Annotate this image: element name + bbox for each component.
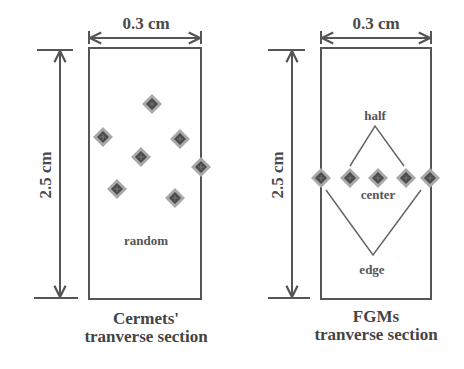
center-label: center: [361, 187, 396, 202]
width-dimension: 0.3 cm: [89, 14, 201, 44]
point-marker-edge-right: [420, 168, 440, 188]
point-marker: [191, 157, 211, 177]
point-marker: [170, 129, 190, 149]
point-marker: [93, 127, 113, 147]
random-label: random: [124, 233, 168, 248]
cermets-caption-line2: tranverse section: [84, 327, 208, 346]
random-points: [93, 94, 211, 208]
point-marker-half-right: [396, 168, 416, 188]
height-dimension: 2.5 cm: [34, 50, 78, 298]
fgm-points: [311, 168, 440, 188]
point-marker: [142, 94, 162, 114]
edge-label: edge: [359, 262, 385, 277]
fgms-panel: 0.3 cm 2.5 cm half center edge FGMs tran…: [268, 14, 440, 344]
height-dimension: 2.5 cm: [268, 50, 310, 298]
width-dimension: 0.3 cm: [321, 14, 431, 44]
width-label: 0.3 cm: [122, 14, 169, 33]
cermets-caption-line1: Cermets': [113, 309, 179, 328]
half-pointer-lines: [350, 126, 404, 166]
fgms-caption-line2: tranverse section: [314, 325, 438, 344]
cermets-panel: 0.3 cm 2.5 cm random Cermets' tranverse …: [34, 14, 211, 346]
width-label: 0.3 cm: [352, 14, 399, 33]
height-label: 2.5 cm: [268, 151, 287, 198]
point-marker: [107, 179, 127, 199]
cermets-section-rect: [89, 48, 201, 299]
point-marker: [131, 147, 151, 167]
point-marker-edge-left: [311, 168, 331, 188]
diagram-canvas: 0.3 cm 2.5 cm random Cermets' tranverse …: [0, 0, 464, 369]
point-marker-half-left: [340, 168, 360, 188]
height-label: 2.5 cm: [36, 151, 55, 198]
point-marker-center: [368, 168, 388, 188]
half-label: half: [364, 108, 386, 123]
fgms-caption-line1: FGMs: [353, 307, 400, 326]
point-marker: [165, 188, 185, 208]
